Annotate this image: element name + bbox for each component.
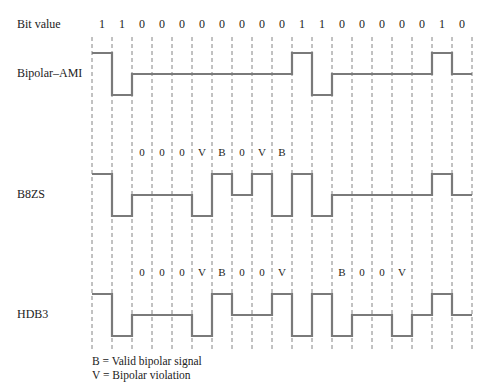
bit-value: 0 [132, 17, 152, 32]
bit-value: 0 [352, 17, 372, 32]
bit-value: 0 [232, 17, 252, 32]
bit-value: 1 [312, 17, 332, 32]
bit-value: 1 [112, 17, 132, 32]
bit-value: 0 [372, 17, 392, 32]
code-marker: V [392, 266, 412, 278]
code-marker: 0 [152, 266, 172, 278]
code-marker: 0 [172, 266, 192, 278]
bit-value: 0 [452, 17, 472, 32]
bit-value: 1 [432, 17, 452, 32]
code-marker: 0 [252, 266, 272, 278]
bit-value: 0 [172, 17, 192, 32]
code-marker: V [192, 146, 212, 158]
bit-value: 0 [212, 17, 232, 32]
signal-label-ami: Bipolar–AMI [17, 66, 82, 81]
bit-value: 0 [272, 17, 292, 32]
code-marker: B [332, 266, 352, 278]
code-marker: 0 [132, 146, 152, 158]
code-marker: 0 [132, 266, 152, 278]
code-marker: B [272, 146, 292, 158]
bit-value: 0 [392, 17, 412, 32]
waveform-canvas [0, 0, 495, 391]
code-marker: 0 [352, 266, 372, 278]
bit-value: 0 [412, 17, 432, 32]
line-coding-diagram: Bit value 1100000000110000010 Bipolar–AM… [0, 0, 495, 391]
code-marker: B [212, 266, 232, 278]
code-marker: V [252, 146, 272, 158]
bit-value: 0 [192, 17, 212, 32]
code-marker: B [212, 146, 232, 158]
legend-bipolar-violation: V = Bipolar violation [92, 369, 191, 381]
code-marker: 0 [172, 146, 192, 158]
code-marker: 0 [152, 146, 172, 158]
legend-valid-bipolar: B = Valid bipolar signal [92, 355, 202, 367]
code-marker: V [272, 266, 292, 278]
code-marker: 0 [232, 146, 252, 158]
waveform-b8zs [92, 174, 472, 216]
bit-value-label: Bit value [17, 17, 61, 32]
bit-value: 0 [332, 17, 352, 32]
waveform-bipolar-ami [92, 53, 472, 95]
code-marker: 0 [372, 266, 392, 278]
bit-value: 1 [92, 17, 112, 32]
code-marker: V [192, 266, 212, 278]
signal-label-hdb3: HDB3 [17, 307, 48, 322]
bit-value: 1 [292, 17, 312, 32]
signal-label-b8zs: B8ZS [17, 187, 45, 202]
waveform-hdb3 [92, 294, 472, 336]
bit-value: 0 [152, 17, 172, 32]
bit-value: 0 [252, 17, 272, 32]
code-marker: 0 [232, 266, 252, 278]
